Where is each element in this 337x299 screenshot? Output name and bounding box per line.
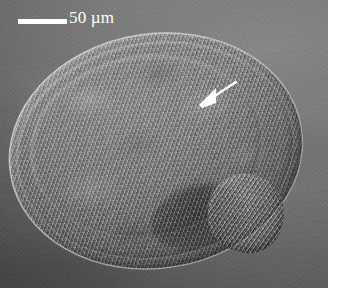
pointer-arrow-icon [190,72,250,116]
scale-bar [18,19,67,24]
page-margin-right [328,0,337,299]
scale-bar-label: 50 µm [69,8,114,27]
page-margin-bottom [0,288,337,299]
micrograph-image: 50 µm [0,0,328,288]
micrograph-figure: 50 µm [0,0,337,299]
